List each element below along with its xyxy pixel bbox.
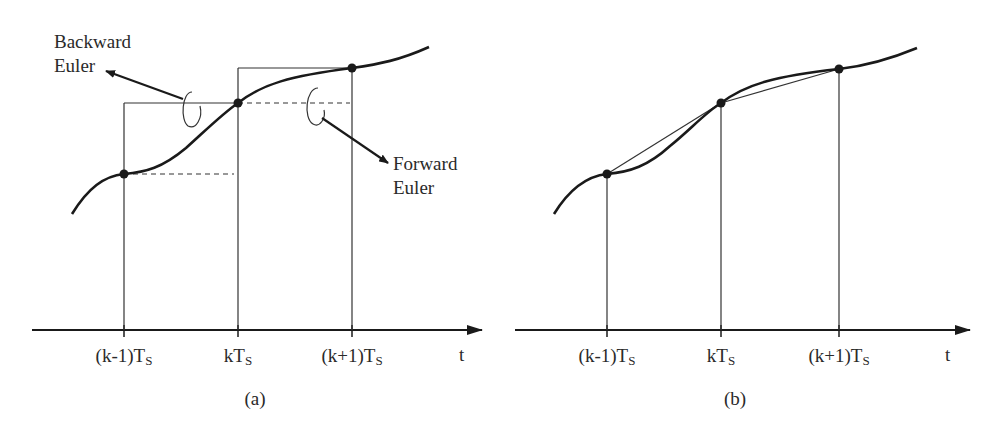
sample-point bbox=[120, 170, 129, 179]
backward-euler-arrow bbox=[106, 71, 183, 99]
panel-b: (k-1)TS kTS (k+1)TS t (b) bbox=[515, 48, 970, 410]
forward-euler-loop-icon bbox=[307, 88, 324, 125]
backward-euler-label: BackwardEuler bbox=[54, 31, 132, 76]
forward-euler-label: ForwardEuler bbox=[393, 153, 458, 198]
tick-label-k: kTS bbox=[707, 345, 735, 368]
sample-point bbox=[348, 64, 357, 73]
tick-label-k: kTS bbox=[224, 345, 252, 368]
panel-a: BackwardEuler ForwardEuler (k-1)TS kTS (… bbox=[32, 31, 482, 410]
trapezoid-chord bbox=[721, 69, 839, 103]
trapezoid-chord bbox=[607, 103, 721, 174]
sample-point bbox=[835, 65, 844, 74]
caption-b: (b) bbox=[724, 388, 746, 410]
backward-euler-loop-icon bbox=[183, 92, 201, 127]
sample-point bbox=[717, 99, 726, 108]
forward-euler-arrow bbox=[322, 118, 388, 163]
function-curve bbox=[72, 47, 429, 214]
tick-label-k-minus-1: (k-1)TS bbox=[579, 345, 636, 368]
caption-a: (a) bbox=[244, 388, 265, 410]
axis-label-t: t bbox=[945, 344, 951, 365]
sample-point bbox=[234, 99, 243, 108]
sample-point bbox=[603, 170, 612, 179]
axis-label-t: t bbox=[459, 344, 465, 365]
tick-label-k-plus-1: (k+1)TS bbox=[808, 345, 869, 368]
function-curve bbox=[554, 48, 917, 214]
euler-integration-diagram: BackwardEuler ForwardEuler (k-1)TS kTS (… bbox=[0, 0, 1002, 435]
tick-label-k-minus-1: (k-1)TS bbox=[96, 345, 153, 368]
tick-label-k-plus-1: (k+1)TS bbox=[321, 345, 382, 368]
